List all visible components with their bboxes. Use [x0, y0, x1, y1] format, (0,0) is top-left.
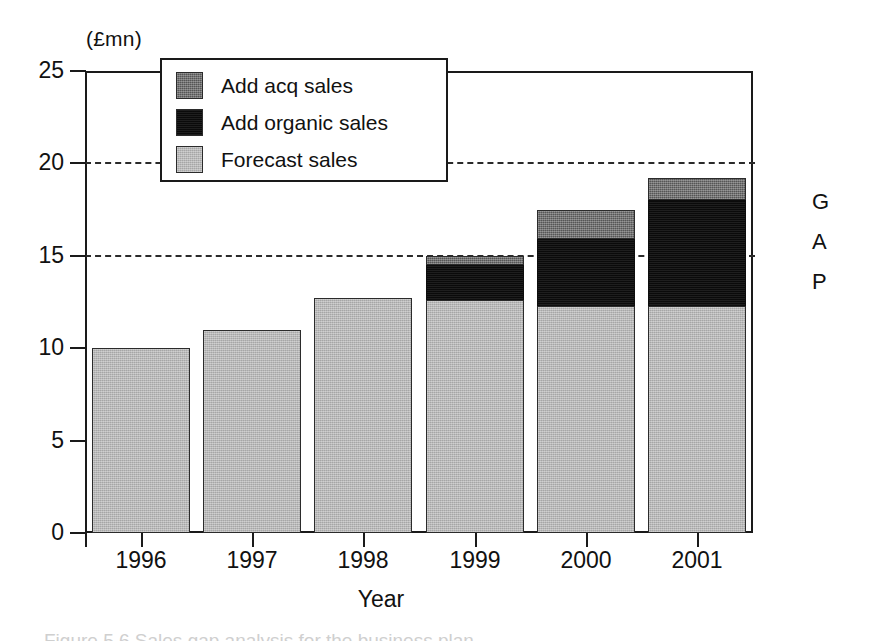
y-tick-15 — [70, 255, 86, 257]
x-tick-1998 — [363, 533, 365, 547]
x-tick-2000 — [586, 533, 588, 547]
legend-label-forecast-sales: Forecast sales — [221, 149, 358, 170]
legend-item-forecast-sales[interactable]: Forecast sales — [162, 141, 446, 178]
bar-segment-1997-forecast-sales — [203, 330, 301, 533]
bar-segment-1999-forecast-sales — [426, 300, 524, 533]
x-tick-label-1996: 1996 — [81, 549, 201, 572]
y-tick-label-0: 0 — [6, 521, 64, 544]
y-axis-unit-label: (£mn) — [86, 27, 142, 51]
bar-segment-2001-add-acq-sales — [648, 178, 746, 200]
legend-item-add-organic-sales[interactable]: Add organic sales — [162, 104, 446, 141]
bar-segment-1996-forecast-sales — [92, 348, 190, 533]
legend-swatch-forecast-icon — [176, 146, 203, 173]
x-axis-title-text: Year — [358, 586, 404, 612]
legend-label-add-organic-sales: Add organic sales — [221, 112, 388, 133]
bar-segment-2000-add-acq-sales — [537, 210, 635, 240]
x-tick-label-2001: 2001 — [637, 549, 757, 572]
legend-label-add-acq-sales: Add acq sales — [221, 75, 353, 96]
gap-annotation: G A P — [812, 182, 852, 302]
figure-caption-partial: Figure 5.6 Sales gap analysis for the bu… — [44, 630, 844, 641]
bar-segment-2000-add-organic-sales — [537, 239, 635, 306]
y-tick-0 — [70, 532, 86, 534]
legend-item-add-acq-sales[interactable]: Add acq sales — [162, 67, 446, 104]
y-tick-20 — [70, 162, 86, 164]
bar-segment-1999-add-acq-sales — [426, 256, 524, 265]
x-axis-title: Year — [0, 586, 876, 613]
y-tick-label-20: 20 — [6, 151, 64, 174]
bar-segment-2001-forecast-sales — [648, 306, 746, 533]
legend-swatch-acq-icon — [176, 72, 203, 99]
x-tick-label-2000: 2000 — [526, 549, 646, 572]
bar-segment-2000-forecast-sales — [537, 306, 635, 533]
x-tick-label-1998: 1998 — [303, 549, 423, 572]
y-tick-label-25: 25 — [6, 59, 64, 82]
x-tick-origin — [85, 533, 87, 547]
legend-swatch-organic-icon — [176, 109, 203, 136]
bar-segment-1999-add-organic-sales — [426, 265, 524, 300]
x-tick-1997 — [252, 533, 254, 547]
x-tick-label-1997: 1997 — [192, 549, 312, 572]
chart-legend: Add acq sales Add organic sales Forecast… — [160, 58, 448, 182]
y-tick-label-15: 15 — [6, 244, 64, 267]
gap-letter-a: A — [812, 222, 852, 262]
bar-segment-2001-add-organic-sales — [648, 200, 746, 305]
y-tick-25 — [70, 70, 86, 72]
gap-letter-g: G — [812, 182, 852, 222]
y-tick-label-5: 5 — [6, 429, 64, 452]
gap-letter-p: P — [812, 262, 852, 302]
x-tick-1996 — [141, 533, 143, 547]
bar-segment-1998-forecast-sales — [314, 298, 412, 533]
chart-figure: (£mn) 0510152025 19961997199819992000200… — [0, 0, 876, 641]
y-tick-5 — [70, 440, 86, 442]
y-tick-label-10: 10 — [6, 336, 64, 359]
x-tick-1999 — [475, 533, 477, 547]
x-tick-2001 — [697, 533, 699, 547]
x-tick-label-1999: 1999 — [415, 549, 535, 572]
y-tick-10 — [70, 347, 86, 349]
